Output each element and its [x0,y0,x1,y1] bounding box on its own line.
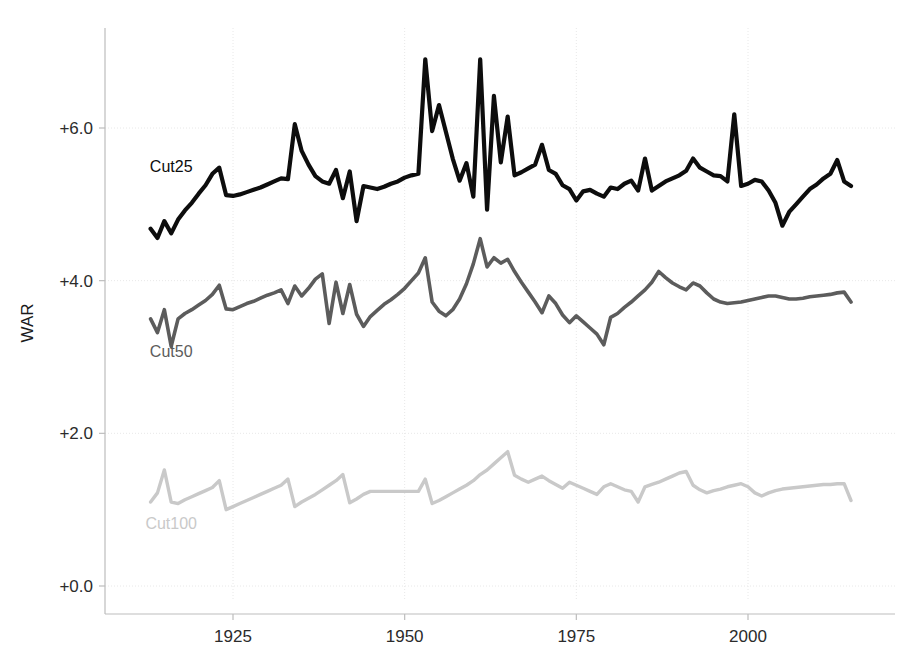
x-tick-label: 2000 [729,627,767,646]
x-tick-label: 1950 [386,627,424,646]
y-tick-label: +4.0 [59,272,93,291]
chart-canvas: +0.0+2.0+4.0+6.0 1925195019752000 WAR Cu… [0,0,908,663]
series-label-cut50: Cut50 [150,343,193,360]
x-tick-label: 1925 [214,627,252,646]
x-tick-label: 1975 [557,627,595,646]
y-axis-label: WAR [18,303,37,342]
series-label-cut25: Cut25 [150,158,193,175]
y-tick-label: +0.0 [59,577,93,596]
war-line-chart: +0.0+2.0+4.0+6.0 1925195019752000 WAR Cu… [0,0,908,663]
y-tick-label: +2.0 [59,424,93,443]
series-label-cut100: Cut100 [145,515,197,532]
chart-background [0,0,908,663]
y-tick-label: +6.0 [59,119,93,138]
